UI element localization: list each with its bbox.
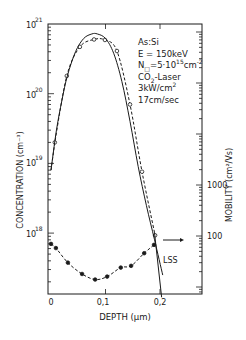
annotation-line-4: CO2-Laser xyxy=(138,72,203,84)
annotation-line-1: As:Si xyxy=(138,37,203,49)
data-point xyxy=(105,275,109,279)
x-axis-title: DEPTH (μm) xyxy=(99,312,151,322)
y-axis-title: CONCENTRATION (cm⁻³) xyxy=(16,131,25,228)
annotation-line-6: 17cm/sec xyxy=(138,95,203,107)
y-tick-exponent: 20 xyxy=(35,86,43,93)
data-point xyxy=(49,242,53,246)
arrow-head-icon xyxy=(180,238,184,242)
y-tick-exponent: 19 xyxy=(35,154,43,161)
x-tick-label: 0,1 xyxy=(97,298,110,307)
x-tick-label: 0,2 xyxy=(154,298,167,307)
annotation-box: As:Si E = 150keV N□=5·1015cm-2 CO2-Laser… xyxy=(138,37,203,106)
y2-axis-title: MOBILITY (cm²/Vs) xyxy=(225,148,234,222)
data-point xyxy=(92,38,96,42)
annotation-line-2: E = 150keV xyxy=(138,49,203,61)
y-tick-exponent: 21 xyxy=(35,16,43,23)
chart: 1021102010191018100010000,10,2DEPTH (μm)… xyxy=(0,0,246,340)
data-point xyxy=(115,49,119,53)
y2-tick-label: 100 xyxy=(207,232,222,241)
data-point xyxy=(119,266,123,270)
lss-label: LSS xyxy=(163,256,178,265)
data-point xyxy=(142,251,146,255)
data-point xyxy=(54,246,58,250)
annotation-line-5: 3kW/cm2 xyxy=(138,83,203,95)
data-point xyxy=(80,272,84,276)
data-point xyxy=(66,261,70,265)
annotation-line-3: N□=5·1015cm-2 xyxy=(138,60,203,72)
data-point xyxy=(128,103,132,107)
data-point xyxy=(129,264,133,268)
data-point xyxy=(140,170,144,174)
y-tick-exponent: 18 xyxy=(35,225,43,232)
x-tick-label: 0 xyxy=(48,298,53,307)
data-point xyxy=(93,278,97,282)
